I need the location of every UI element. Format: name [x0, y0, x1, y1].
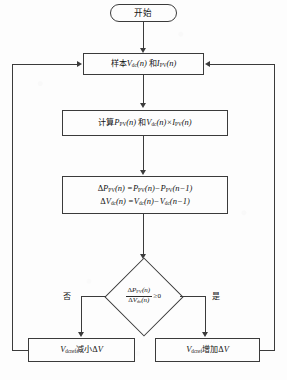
- node-delta-line2: ΔVdc(n) =Vdc(n)−Vdc(n−1): [100, 196, 190, 207]
- node-delta-line2-argn1: (n−1): [170, 196, 190, 206]
- arrowhead-feedback-left-to-sample: [77, 61, 82, 67]
- decision-denominator: ΔVdc(n): [126, 296, 153, 306]
- arrowhead-yes-to-increase: [202, 332, 208, 337]
- node-compute-var3-sub: PV: [175, 122, 182, 128]
- arrowhead-no-to-decrease: [78, 332, 84, 337]
- decision-numerator: ΔPPV(n): [126, 287, 153, 296]
- node-increase: Vdcref增加ΔV: [155, 338, 260, 362]
- arrowhead-feedback-right-to-sample: [205, 61, 210, 67]
- decision-num-arg: (n): [142, 286, 150, 294]
- node-increase-action: 增加: [202, 345, 218, 354]
- node-increase-delta-var: V: [224, 344, 229, 354]
- decision-comparator: ≥0: [153, 292, 161, 300]
- node-compute-arg1: (n): [126, 117, 136, 127]
- node-compute-arg2: (n): [156, 117, 166, 127]
- decision-label: ΔPPV(n) ΔVdc(n) ≥0: [105, 258, 181, 334]
- node-decrease-action: 减小: [76, 345, 92, 354]
- node-start: 开始: [110, 4, 177, 22]
- edge-delta-to-decision: [143, 214, 144, 256]
- edge-feedback-left-bottom: [12, 350, 29, 351]
- node-delta-line2-argn: (n): [116, 196, 126, 206]
- node-delta-line1-argn1: (n−1): [172, 183, 192, 193]
- edge-feedback-right-top: [210, 64, 275, 65]
- edge-feedback-right-bottom: [260, 350, 275, 351]
- node-sample-prefix: 样本: [111, 59, 127, 68]
- edge-no-vertical: [81, 296, 82, 334]
- edge-start-to-sample: [143, 22, 144, 50]
- node-decrease: Vdcref减小ΔV: [28, 338, 135, 362]
- decision-den-arg: (n): [141, 296, 149, 304]
- node-compute-arg3: (n): [182, 117, 192, 127]
- node-decrease-var-sub: dcref: [65, 349, 76, 355]
- node-delta-line1-argn2: (n): [145, 183, 155, 193]
- node-sample: 样本Vdc(n) 和IPV(n): [83, 53, 204, 75]
- decision-fraction: ΔPPV(n) ΔVdc(n): [126, 287, 153, 305]
- node-increase-label: Vdcref增加ΔV: [186, 344, 229, 355]
- edge-feedback-right-vertical: [274, 64, 275, 351]
- arrowhead-sample-to-compute: [140, 103, 146, 108]
- node-decision: ΔPPV(n) ΔVdc(n) ≥0: [105, 258, 181, 334]
- edge-yes-vertical: [205, 296, 206, 334]
- node-compute-prefix: 计算: [98, 118, 114, 127]
- branch-label-no: 否: [63, 290, 71, 301]
- edge-compute-to-delta: [143, 136, 144, 172]
- node-delta-line2-argn2: (n): [144, 196, 154, 206]
- edge-feedback-left-vertical: [12, 64, 13, 351]
- node-delta-line1-argn: (n): [115, 183, 125, 193]
- edge-no-horizontal: [81, 296, 106, 297]
- node-decrease-label: Vdcref减小ΔV: [60, 344, 103, 355]
- node-start-label: 开始: [134, 8, 153, 19]
- node-decrease-delta-var: V: [98, 344, 103, 354]
- node-compute-label: 计算PPV(n) 和Vdc(n)×IPV(n): [98, 117, 191, 128]
- branch-label-yes: 是: [212, 290, 220, 301]
- flowchart-diagram: 开始 样本Vdc(n) 和IPV(n) 计算PPV(n) 和Vdc(n)×IPV…: [0, 0, 287, 380]
- node-compute: 计算PPV(n) 和Vdc(n)×IPV(n): [62, 110, 228, 136]
- edge-sample-to-compute: [143, 75, 144, 105]
- edge-feedback-left-top: [12, 64, 78, 65]
- node-delta-line1-p2-sub: PV: [138, 187, 145, 193]
- node-sample-arg1: (n): [137, 58, 147, 68]
- node-sample-conj: 和: [149, 59, 157, 68]
- edge-yes-horizontal: [180, 296, 206, 297]
- node-increase-var-sub: dcref: [191, 349, 202, 355]
- node-delta-line1: ΔPPV(n) =PPV(n)−PPV(n−1): [98, 183, 193, 194]
- arrowhead-compute-to-delta: [140, 170, 146, 175]
- node-sample-label: 样本Vdc(n) 和IPV(n): [111, 58, 177, 69]
- node-delta: ΔPPV(n) =PPV(n)−PPV(n−1) ΔVdc(n) =Vdc(n)…: [62, 176, 228, 214]
- node-sample-arg2: (n): [166, 58, 176, 68]
